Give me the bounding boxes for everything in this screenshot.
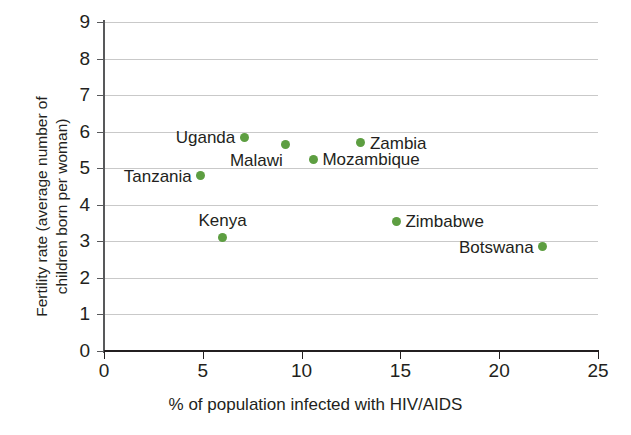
x-axis-line: [104, 350, 599, 352]
y-tick: [97, 95, 104, 96]
x-tick: [499, 351, 500, 359]
data-point: [392, 217, 401, 226]
data-point-label: Uganda: [176, 129, 236, 146]
x-tick-label: 20: [479, 361, 519, 380]
gridline: [104, 205, 598, 206]
gridline: [104, 22, 598, 23]
data-point-label: Kenya: [198, 211, 246, 228]
data-point: [240, 133, 249, 142]
y-tick: [97, 168, 104, 169]
x-tick-label: 5: [183, 361, 223, 380]
y-axis-title: Fertility rate (average number of childr…: [32, 36, 73, 376]
x-tick: [400, 351, 401, 359]
y-tick: [97, 351, 104, 352]
data-point-label: Zambia: [370, 134, 427, 151]
data-point-label: Botswana: [459, 238, 534, 255]
x-tick-label: 10: [282, 361, 322, 380]
y-tick: [97, 22, 104, 23]
gridline: [104, 59, 598, 60]
x-tick: [598, 351, 599, 359]
y-tick: [97, 59, 104, 60]
y-tick: [97, 314, 104, 315]
data-point-label: Zimbabwe: [405, 213, 483, 230]
y-tick: [97, 278, 104, 279]
y-tick: [97, 205, 104, 206]
gridline: [104, 95, 598, 96]
scatter-chart: 01234567890510152025 TanzaniaKenyaUganda…: [0, 0, 631, 435]
x-tick-label: 0: [84, 361, 124, 380]
x-tick: [203, 351, 204, 359]
gridline: [104, 278, 598, 279]
y-tick-label: 9: [66, 12, 90, 31]
data-point-label: Tanzania: [124, 167, 192, 184]
y-tick: [97, 132, 104, 133]
data-point-label: Malawi: [230, 152, 283, 169]
data-point-label: Mozambique: [322, 151, 419, 168]
data-point: [309, 155, 318, 164]
x-axis-title: % of population infected with HIV/AIDS: [0, 395, 631, 415]
x-tick: [104, 351, 105, 359]
plot-area: [104, 22, 598, 351]
x-tick-label: 25: [578, 361, 618, 380]
x-tick-label: 15: [380, 361, 420, 380]
gridline: [104, 314, 598, 315]
x-tick: [302, 351, 303, 359]
y-axis-line: [103, 20, 105, 353]
y-tick: [97, 241, 104, 242]
